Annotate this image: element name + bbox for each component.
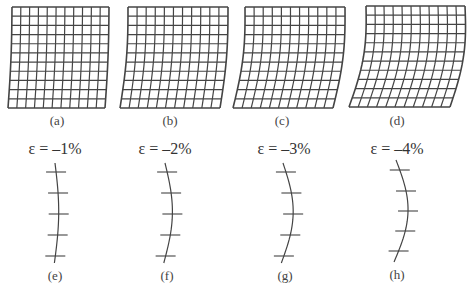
grid-vline bbox=[278, 7, 290, 108]
grid-vline bbox=[79, 7, 83, 108]
panel-label-f: (f) bbox=[161, 268, 174, 284]
panel-label-h: (h) bbox=[389, 267, 404, 283]
grid-vline bbox=[315, 7, 327, 108]
grid-vline bbox=[17, 7, 21, 108]
panel-f bbox=[156, 163, 183, 263]
panel-b bbox=[120, 7, 228, 108]
grid-vline bbox=[156, 7, 164, 108]
grid-vline bbox=[432, 6, 448, 107]
grid-vline bbox=[96, 7, 100, 108]
grid-vline bbox=[147, 7, 155, 108]
grid-vline bbox=[52, 7, 56, 108]
panel-label-e: (e) bbox=[48, 268, 62, 284]
grid-vline bbox=[165, 7, 173, 108]
grid-vline bbox=[193, 7, 201, 108]
grid-vline bbox=[43, 7, 47, 108]
panel-label-c: (c) bbox=[275, 113, 289, 129]
strain-label-e: ε = –1% bbox=[28, 140, 81, 158]
deformed-fiber-line bbox=[281, 163, 293, 263]
panel-c bbox=[233, 7, 345, 108]
panel-d bbox=[349, 6, 466, 107]
panel-e bbox=[45, 163, 68, 263]
grid-vline bbox=[202, 7, 210, 108]
panel-label-g: (g) bbox=[277, 268, 292, 284]
strain-label-h: ε = –4% bbox=[370, 140, 423, 158]
grid-vline bbox=[297, 7, 309, 108]
grid-vline bbox=[220, 7, 228, 108]
grid-vline bbox=[175, 7, 183, 108]
grid-vline bbox=[184, 7, 192, 108]
grid-vline bbox=[288, 7, 300, 108]
grid-vline bbox=[233, 7, 245, 108]
grid-vline bbox=[242, 7, 254, 108]
panel-h bbox=[389, 160, 418, 262]
grid-vline bbox=[422, 6, 438, 107]
panel-a bbox=[8, 7, 109, 108]
grid-vline bbox=[61, 7, 65, 108]
grid-vline bbox=[450, 6, 466, 107]
grid-vline bbox=[333, 7, 345, 108]
panel-label-d: (d) bbox=[389, 113, 404, 129]
grid-vline bbox=[105, 7, 109, 108]
strain-label-g: ε = –3% bbox=[257, 140, 310, 158]
strain-label-f: ε = –2% bbox=[138, 140, 191, 158]
grid-vline bbox=[120, 7, 128, 108]
grid-vline bbox=[260, 7, 272, 108]
grid-vline bbox=[70, 7, 74, 108]
grid-vline bbox=[129, 7, 137, 108]
grid-vline bbox=[138, 7, 146, 108]
deformed-fiber-line bbox=[164, 163, 173, 263]
panel-label-b: (b) bbox=[162, 113, 177, 129]
grid-vline bbox=[34, 7, 38, 108]
grid-vline bbox=[87, 7, 91, 108]
grid-vline bbox=[251, 7, 263, 108]
panel-label-a: (a) bbox=[50, 113, 64, 129]
grid-vline bbox=[269, 7, 281, 108]
grid-vline bbox=[211, 7, 219, 108]
grid-vline bbox=[324, 7, 336, 108]
grid-vline bbox=[26, 7, 30, 108]
grid-vline bbox=[8, 7, 12, 108]
panel-g bbox=[274, 163, 303, 263]
deformed-fiber-line bbox=[54, 163, 58, 263]
grid-vline bbox=[306, 7, 318, 108]
